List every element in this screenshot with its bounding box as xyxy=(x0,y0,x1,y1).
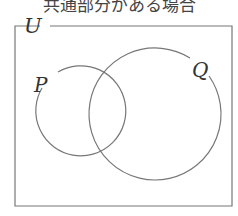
venn-diagram: U P Q xyxy=(0,0,238,216)
set-q-label: Q xyxy=(192,58,208,82)
set-p-circle xyxy=(36,66,126,156)
universe-label: U xyxy=(24,14,43,38)
universe-rectangle xyxy=(15,26,232,206)
set-p-label: P xyxy=(33,73,48,97)
